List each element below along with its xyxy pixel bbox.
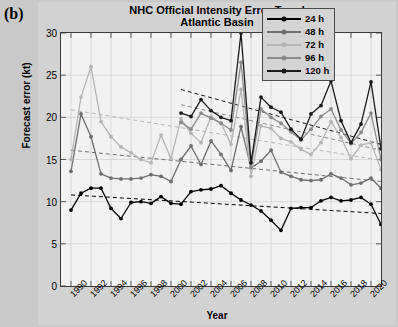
legend-line-swatch bbox=[267, 39, 301, 50]
legend-label: 24 h bbox=[305, 13, 324, 24]
legend-label: 72 h bbox=[305, 39, 324, 50]
y-tick-label: 0 bbox=[51, 281, 57, 292]
legend-line-swatch bbox=[267, 26, 301, 37]
legend-label: 96 h bbox=[305, 52, 324, 63]
title-block: NHC Official Intensity Error Trend Atlan… bbox=[38, 4, 396, 28]
legend-item-24h[interactable]: 24 h bbox=[267, 12, 329, 25]
y-tick-label: 30 bbox=[46, 28, 57, 39]
x-axis-label: Year bbox=[38, 310, 396, 321]
y-axis-label: Forecast error (kt) bbox=[21, 36, 32, 176]
legend-label: 120 h bbox=[305, 65, 329, 76]
y-tick-label: 5 bbox=[51, 238, 57, 249]
legend-line-swatch bbox=[267, 52, 301, 63]
legend-line-swatch bbox=[267, 65, 301, 76]
legend-line-swatch bbox=[267, 13, 301, 24]
figure-panel: (b) NHC Official Intensity Error Trend A… bbox=[0, 0, 398, 327]
y-tick-label: 25 bbox=[46, 70, 57, 81]
legend-item-72h[interactable]: 72 h bbox=[267, 38, 329, 51]
legend-label: 48 h bbox=[305, 26, 324, 37]
legend-item-96h[interactable]: 96 h bbox=[267, 51, 329, 64]
chart-title: NHC Official Intensity Error Trend bbox=[38, 4, 396, 16]
legend-item-120h[interactable]: 120 h bbox=[267, 64, 329, 77]
y-tick-label: 15 bbox=[46, 154, 57, 165]
y-tick-label: 20 bbox=[46, 112, 57, 123]
panel-label: (b) bbox=[4, 5, 24, 23]
y-tick-label: 10 bbox=[46, 196, 57, 207]
chart-legend: 24 h48 h72 h96 h120 h bbox=[262, 8, 335, 81]
chart-subtitle: Atlantic Basin bbox=[38, 16, 396, 28]
legend-item-48h[interactable]: 48 h bbox=[267, 25, 329, 38]
